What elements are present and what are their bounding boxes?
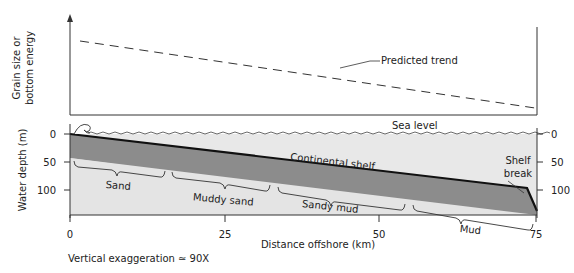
left-tick-label: 100 <box>37 185 56 196</box>
arrow-up-icon <box>67 14 73 22</box>
left-tick-label: 50 <box>43 157 56 168</box>
sea-level-label: Sea level <box>392 120 438 131</box>
right-tick-label: 100 <box>551 185 570 196</box>
zone-label-mud: Mud <box>459 223 481 236</box>
wave-icon <box>74 124 90 134</box>
sea-level-line <box>88 132 550 134</box>
shelf-sediment-diagram: Predicted trend Grain size or bottom ene… <box>0 0 574 273</box>
trend-leader-line <box>340 61 380 68</box>
zone-label-sand: Sand <box>105 179 131 192</box>
shelf-break-label-line2: break <box>504 168 533 179</box>
x-tick-label: 25 <box>219 229 232 240</box>
vertical-exaggeration-note: Vertical exaggeration ≃ 90X <box>68 253 209 264</box>
y-label-upper-line1: Grain size or <box>11 36 22 100</box>
shelf-break-label-line1: Shelf <box>505 155 531 166</box>
y-label-upper-line2: bottom energy <box>24 31 35 105</box>
lower-panel: 0 50 100 0 50 100 0 25 50 75 Distance of… <box>17 120 570 264</box>
right-tick-label: 0 <box>551 129 557 140</box>
predicted-trend-line <box>80 41 535 108</box>
right-tick-label: 50 <box>551 157 564 168</box>
left-tick-label: 0 <box>50 129 56 140</box>
upper-panel: Predicted trend Grain size or bottom ene… <box>11 14 537 115</box>
x-axis-label: Distance offshore (km) <box>261 239 375 250</box>
trend-label: Predicted trend <box>381 55 458 66</box>
x-tick-label: 75 <box>530 229 543 240</box>
y-label-lower: Water depth (m) <box>17 129 28 212</box>
x-tick-label: 0 <box>67 229 73 240</box>
